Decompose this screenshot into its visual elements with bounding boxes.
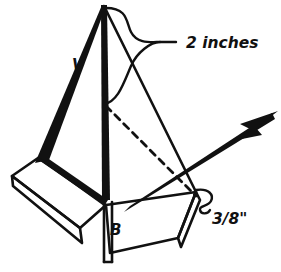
pyramid-body [35,5,196,201]
dimension-three-eighths-label: 3/8" [212,210,247,228]
callout-three-eighths: 3/8" [196,190,247,228]
callout-2-inches: 2 inches [104,8,259,104]
pyramid-left-bold-edge [35,5,106,163]
pyramid-right-edge [104,6,196,192]
direction-arrow [124,111,278,212]
technical-drawing-figure: 2 inches 3/8" V B [0,0,281,272]
label-b: B [110,221,121,239]
pyramid-hidden-edge-dashed [106,106,196,196]
label-v: V [72,56,85,74]
dimension-2-inches-label: 2 inches [186,34,259,52]
pyramid-left-face-base-line [38,158,104,201]
base-right-front-face [178,192,200,247]
drawing-canvas: 2 inches 3/8" V B [0,0,281,272]
base-left-front-face [12,176,82,243]
